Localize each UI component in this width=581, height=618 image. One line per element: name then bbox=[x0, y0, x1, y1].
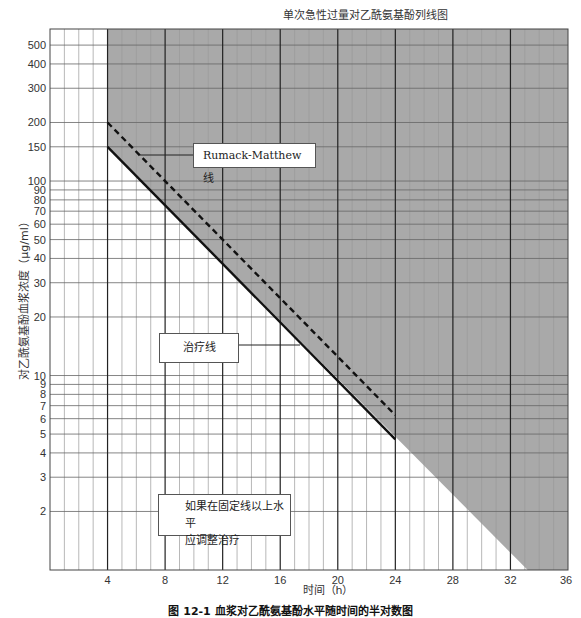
y-tick-label: 30 bbox=[34, 277, 46, 289]
y-tick-label: 200 bbox=[28, 116, 46, 128]
x-tick-label: 24 bbox=[389, 574, 401, 586]
y-tick-label: 4 bbox=[40, 447, 46, 459]
y-tick-label: 500 bbox=[28, 39, 46, 51]
x-tick-label: 12 bbox=[217, 574, 229, 586]
y-tick-label: 5 bbox=[40, 428, 46, 440]
y-tick-label: 400 bbox=[28, 58, 46, 70]
note-line-2: 应调整治疗 bbox=[185, 532, 290, 549]
y-axis-label: 对乙酰氨基酚血浆浓度（μg/ml） bbox=[15, 178, 31, 418]
x-tick-label: 36 bbox=[560, 574, 572, 586]
treatment-line-label: 治疗线 bbox=[159, 333, 239, 363]
x-tick-label: 4 bbox=[104, 574, 110, 586]
y-tick-label: 150 bbox=[28, 141, 46, 153]
x-tick-label: 32 bbox=[504, 574, 516, 586]
x-tick-label: 8 bbox=[162, 574, 168, 586]
y-tick-label: 40 bbox=[34, 252, 46, 264]
figure-caption: 图 12-1 血浆对乙酰氨基酚水平随时间的半对数图 bbox=[0, 602, 581, 618]
note-line-1: 如果在固定线以上水平 bbox=[185, 498, 290, 532]
y-tick-label: 7 bbox=[40, 400, 46, 412]
y-tick-label: 10 bbox=[34, 370, 46, 382]
y-tick-label: 2 bbox=[40, 505, 46, 517]
y-tick-label: 300 bbox=[28, 82, 46, 94]
y-tick-label: 60 bbox=[34, 218, 46, 230]
x-tick-label: 28 bbox=[447, 574, 459, 586]
y-tick-label: 70 bbox=[34, 205, 46, 217]
y-tick-label: 20 bbox=[34, 311, 46, 323]
treatment-note-box: 如果在固定线以上水平 应调整治疗 bbox=[158, 494, 291, 536]
y-tick-label: 3 bbox=[40, 471, 46, 483]
y-tick-label: 6 bbox=[40, 413, 46, 425]
rumack-matthew-label: Rumack-Matthew 线 bbox=[193, 143, 316, 168]
x-axis-label: 时间（h） bbox=[278, 581, 378, 597]
y-tick-label: 50 bbox=[34, 234, 46, 246]
